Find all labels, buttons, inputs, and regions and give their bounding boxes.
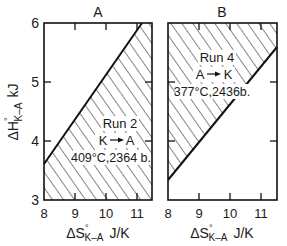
y-tick-label-6: 6 bbox=[31, 15, 39, 31]
panel-b-x-tick-8: 8 bbox=[164, 206, 171, 221]
x-axis-label-main: ΔS bbox=[66, 225, 85, 241]
panel-b-x-tick-10: 10 bbox=[223, 206, 237, 221]
panel-a-run-label: Run 2 bbox=[103, 116, 138, 131]
x-axis-label-main: ΔS bbox=[190, 225, 209, 241]
y-tick-label-5: 5 bbox=[31, 74, 39, 90]
panel-b-hatched-region bbox=[168, 23, 277, 180]
panel-b-from: A bbox=[196, 67, 205, 82]
panel-b-conditions: 377°C,2436b. bbox=[174, 85, 251, 99]
panel-a-from: K bbox=[99, 133, 108, 148]
panel-a-x-tick-9: 9 bbox=[71, 206, 78, 221]
panel-b-to: K bbox=[224, 67, 233, 82]
x-axis-label-sub: K–A bbox=[85, 232, 104, 243]
y-axis-label-unit: kJ bbox=[5, 84, 21, 98]
y-tick-label-3: 3 bbox=[31, 192, 39, 208]
panel-b-x-tick-11: 11 bbox=[254, 206, 268, 221]
svg-text:ΔS°K–AJ/K: ΔS°K–AJ/K bbox=[190, 223, 254, 243]
x-axis-label-sub: K–A bbox=[209, 232, 228, 243]
panel-a: A 6 5 4 3 8 9 10 11 bbox=[31, 4, 152, 221]
panel-b-title: B bbox=[217, 4, 226, 20]
y-axis-label-sub: K–A bbox=[13, 102, 24, 121]
y-tick-label-4: 4 bbox=[31, 133, 39, 149]
panel-b-x-axis-label: ΔS°K–AJ/K bbox=[190, 223, 254, 243]
panel-a-x-axis-label: ΔS°K–AJ/K bbox=[66, 223, 130, 243]
panel-b-run-label: Run 4 bbox=[200, 50, 235, 65]
panel-b: B 8 9 10 11 Run 4 A bbox=[164, 4, 277, 221]
x-axis-label-unit: J/K bbox=[233, 225, 254, 241]
panel-a-to: A bbox=[126, 133, 135, 148]
figure: A 6 5 4 3 8 9 10 11 bbox=[0, 0, 287, 246]
svg-text:ΔS°K–AJ/K: ΔS°K–AJ/K bbox=[66, 223, 130, 243]
panel-a-title: A bbox=[93, 4, 103, 20]
panel-a-x-tick-10: 10 bbox=[99, 206, 113, 221]
panel-b-x-tick-9: 9 bbox=[195, 206, 202, 221]
svg-text:ΔH°K–AkJ: ΔH°K–AkJ bbox=[3, 84, 24, 141]
x-axis-label-unit: J/K bbox=[109, 225, 130, 241]
panel-a-conditions: 409°C,2364 b. bbox=[71, 151, 151, 165]
y-axis-label: ΔH°K–AkJ bbox=[3, 84, 24, 141]
y-axis-label-main: ΔH bbox=[5, 121, 21, 140]
panel-a-x-tick-11: 11 bbox=[130, 206, 144, 221]
panel-a-x-tick-8: 8 bbox=[40, 206, 47, 221]
